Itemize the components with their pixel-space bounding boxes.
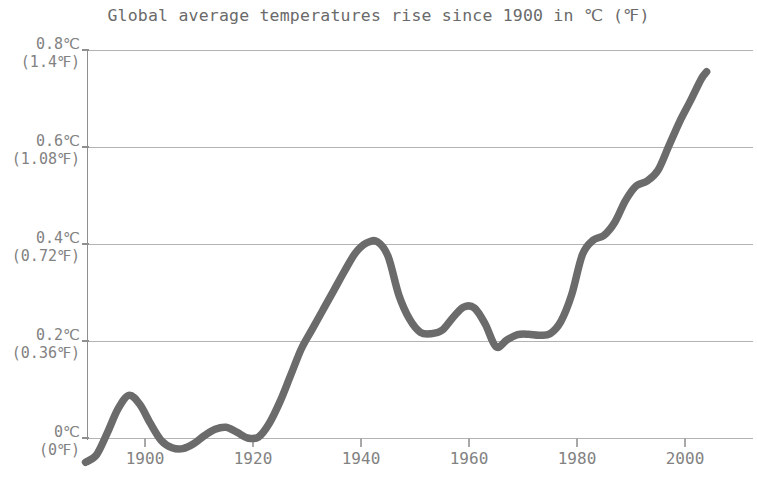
y-axis-label: 0℃(0℉) bbox=[0, 423, 80, 459]
x-axis-label: 1920 bbox=[218, 450, 288, 468]
y-axis-label-fahrenheit: (0.72℉) bbox=[0, 247, 80, 265]
y-axis-label: 0.6℃(1.08℉) bbox=[0, 132, 80, 168]
x-axis-tick bbox=[360, 438, 361, 447]
x-axis-tick bbox=[576, 438, 577, 447]
y-axis-label-celsius: 0.2℃ bbox=[0, 326, 80, 344]
gridline-horizontal bbox=[88, 244, 753, 245]
gridline-horizontal bbox=[88, 438, 753, 439]
x-axis-tick bbox=[468, 438, 469, 447]
y-axis-label-celsius: 0.4℃ bbox=[0, 229, 80, 247]
y-axis-label-fahrenheit: (0.36℉) bbox=[0, 344, 80, 362]
x-axis-label: 2000 bbox=[650, 450, 720, 468]
x-axis-tick bbox=[684, 438, 685, 447]
y-axis-tick bbox=[82, 243, 89, 244]
x-axis-label: 1940 bbox=[326, 450, 396, 468]
chart-container: Global average temperatures rise since 1… bbox=[0, 0, 757, 482]
y-axis-tick bbox=[82, 146, 89, 147]
y-axis-label: 0.8℃(1.4℉) bbox=[0, 35, 80, 71]
x-axis-label: 1960 bbox=[434, 450, 504, 468]
plot-area bbox=[88, 40, 753, 440]
y-axis-label: 0.2℃(0.36℉) bbox=[0, 326, 80, 362]
gridline-horizontal bbox=[88, 341, 753, 342]
chart-title: Global average temperatures rise since 1… bbox=[0, 6, 757, 25]
y-axis-label-fahrenheit: (0℉) bbox=[0, 441, 80, 459]
y-axis-label-fahrenheit: (1.4℉) bbox=[0, 53, 80, 71]
gridline-horizontal bbox=[88, 147, 753, 148]
y-axis-label-celsius: 0.8℃ bbox=[0, 35, 80, 53]
y-axis-label: 0.4℃(0.72℉) bbox=[0, 229, 80, 265]
x-axis-label: 1980 bbox=[542, 450, 612, 468]
x-axis-tick bbox=[144, 438, 145, 447]
y-axis-tick bbox=[82, 49, 89, 50]
x-axis-label: 1900 bbox=[110, 450, 180, 468]
y-axis-tick bbox=[82, 340, 89, 341]
x-axis-tick bbox=[252, 438, 253, 447]
gridline-horizontal bbox=[88, 50, 753, 51]
y-axis-tick bbox=[82, 437, 89, 438]
y-axis-label-fahrenheit: (1.08℉) bbox=[0, 150, 80, 168]
y-axis-label-celsius: 0.6℃ bbox=[0, 132, 80, 150]
y-axis-label-celsius: 0℃ bbox=[0, 423, 80, 441]
